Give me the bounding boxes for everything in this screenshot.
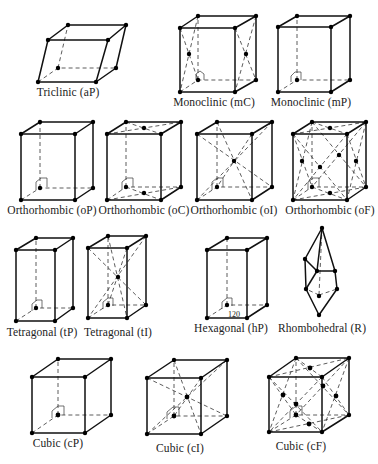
label-cubic-cP: Cubic (cP) [33,437,84,449]
cell-orthorhombic-oP [19,120,95,202]
label-orthorhombic-oF: Orthorhombic (oF) [285,204,375,216]
label-triclinic-aP: Triclinic (aP) [37,86,100,98]
label-hexagonal-hP: Hexagonal (hP) [194,322,268,334]
cell-triclinic-aP [36,23,128,84]
cell-cubic-cF [267,356,351,434]
cell-orthorhombic-oF [291,120,368,202]
label-cubic-cI: Cubic (cI) [156,442,204,454]
cell-orthorhombic-oC [105,120,183,202]
label-monoclinic-mC: Monoclinic (mC) [173,96,255,108]
label-rhombohedral-R: Rhombohedral (R) [278,322,366,334]
label-tetragonal-tI: Tetragonal (tI) [84,326,152,338]
label-orthorhombic-oI: Orthorhombic (oI) [191,204,278,216]
cell-monoclinic-mP [276,14,352,94]
cell-monoclinic-mC [178,14,258,94]
label-orthorhombic-oP: Orthorhombic (oP) [7,204,97,216]
hex-angle-label: 120 [228,310,240,319]
label-orthorhombic-oC: Orthorhombic (oC) [99,204,190,216]
bravais-lattice-diagram: 120 [0,0,378,464]
cell-hexagonal-hP: 120 [205,236,269,320]
label-monoclinic-mP: Monoclinic (mP) [271,96,351,108]
cell-cubic-cP [30,357,113,435]
cell-orthorhombic-oI [195,120,274,202]
cell-tetragonal-tI [86,234,148,320]
label-tetragonal-tP: Tetragonal (tP) [7,326,78,338]
cell-cubic-cI [145,358,229,436]
label-cubic-cF: Cubic (cF) [276,440,327,452]
cell-rhombohedral-R [303,226,339,317]
cell-tetragonal-tP [14,236,75,323]
